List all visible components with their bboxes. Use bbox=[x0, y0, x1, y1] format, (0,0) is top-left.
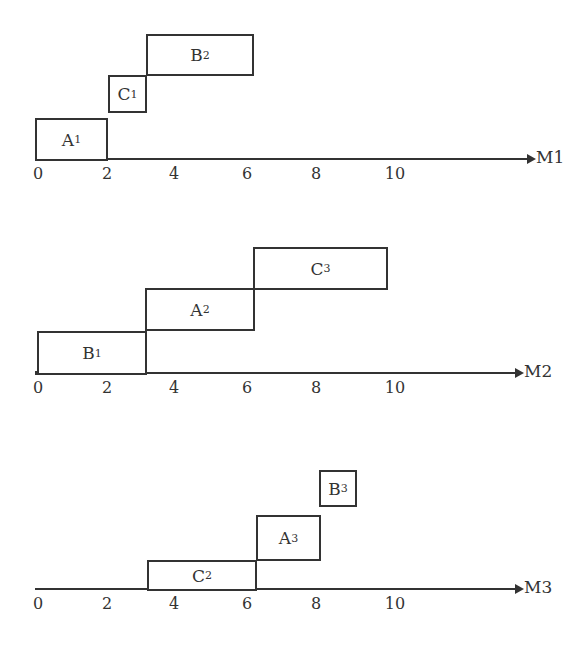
task-job-label: A bbox=[190, 300, 202, 320]
machine-label: M3 bbox=[524, 577, 552, 597]
tick-label: 4 bbox=[169, 594, 179, 613]
task-block: A1 bbox=[35, 118, 108, 161]
tick-label: 8 bbox=[311, 164, 321, 183]
task-block: A2 bbox=[145, 288, 255, 331]
tick-label: 6 bbox=[242, 378, 252, 397]
tick-label: 6 bbox=[242, 594, 252, 613]
task-job-label: A bbox=[279, 528, 291, 548]
task-operation-index: 2 bbox=[203, 303, 210, 316]
gantt-diagram: M10246810A1C1B2M20246810B1A2C3M30246810C… bbox=[0, 0, 584, 649]
arrow-head-icon bbox=[527, 154, 536, 164]
tick-label: 0 bbox=[33, 378, 43, 397]
tick-label: 2 bbox=[102, 594, 112, 613]
task-block: B2 bbox=[146, 34, 254, 76]
machine-label: M1 bbox=[536, 147, 564, 167]
task-operation-index: 1 bbox=[74, 133, 81, 146]
task-operation-index: 3 bbox=[324, 262, 331, 275]
timeline-axis bbox=[35, 158, 527, 160]
task-operation-index: 1 bbox=[131, 88, 138, 101]
tick-label: 4 bbox=[169, 164, 179, 183]
arrow-head-icon bbox=[515, 368, 524, 378]
task-job-label: B bbox=[190, 45, 203, 65]
task-job-label: B bbox=[328, 479, 341, 499]
tick-label: 2 bbox=[102, 164, 112, 183]
task-operation-index: 3 bbox=[341, 482, 348, 495]
tick-label: 6 bbox=[242, 164, 252, 183]
task-block: C1 bbox=[108, 75, 147, 113]
machine-label: M2 bbox=[524, 361, 552, 381]
task-job-label: C bbox=[117, 84, 130, 104]
task-operation-index: 2 bbox=[205, 569, 212, 582]
task-block: A3 bbox=[256, 515, 321, 561]
task-block: B3 bbox=[319, 470, 357, 507]
tick-label: 8 bbox=[311, 378, 321, 397]
task-job-label: C bbox=[192, 566, 205, 586]
tick-label: 10 bbox=[385, 378, 405, 397]
task-job-label: C bbox=[310, 259, 323, 279]
task-operation-index: 2 bbox=[203, 49, 210, 62]
task-block: C2 bbox=[147, 560, 257, 591]
arrow-head-icon bbox=[515, 584, 524, 594]
task-operation-index: 1 bbox=[95, 347, 102, 360]
tick-label: 0 bbox=[33, 594, 43, 613]
task-job-label: A bbox=[62, 130, 74, 150]
tick-label: 4 bbox=[169, 378, 179, 397]
tick-label: 8 bbox=[311, 594, 321, 613]
tick-label: 2 bbox=[102, 378, 112, 397]
timeline-axis bbox=[35, 588, 515, 590]
tick-label: 10 bbox=[385, 594, 405, 613]
task-job-label: B bbox=[82, 343, 95, 363]
task-operation-index: 3 bbox=[291, 532, 298, 545]
task-block: C3 bbox=[253, 247, 388, 290]
task-block: B1 bbox=[37, 331, 147, 375]
tick-label: 10 bbox=[385, 164, 405, 183]
tick-label: 0 bbox=[33, 164, 43, 183]
